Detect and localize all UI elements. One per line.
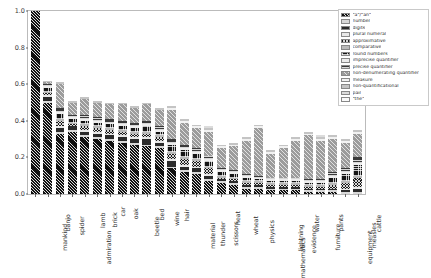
legend-item[interactable]: comparative (341, 44, 426, 50)
stacked-bar[interactable] (43, 81, 52, 194)
bar-column[interactable]: wheat (228, 11, 240, 194)
stacked-bar[interactable] (68, 101, 77, 194)
stacked-bar[interactable] (204, 126, 213, 194)
bar-column[interactable]: beetle (128, 11, 140, 194)
x-axis-tick-mark (271, 194, 272, 197)
bar-column[interactable]: pants (314, 11, 326, 194)
legend-item[interactable]: approximative (341, 38, 426, 44)
stacked-bar[interactable] (180, 119, 189, 194)
plot-area: 0.00.20.40.60.81.0 mankindbanjospideradm… (27, 10, 366, 195)
bar-column[interactable]: mankind (29, 11, 41, 194)
bar-column[interactable]: wine (153, 11, 165, 194)
stacked-bar[interactable] (229, 143, 238, 194)
x-axis-tick-mark (308, 194, 309, 197)
legend-item[interactable]: measure (341, 77, 426, 83)
x-axis-tick-label: spider (79, 216, 85, 235)
stacked-bar[interactable] (328, 135, 337, 194)
legend-item[interactable]: imprecise quantifier (341, 57, 426, 63)
stacked-bar[interactable] (192, 124, 201, 194)
stacked-bar[interactable] (266, 150, 275, 194)
x-axis-tick-label: physics (269, 220, 275, 243)
legend-item[interactable]: plural numeral (341, 31, 426, 37)
stacked-bar[interactable] (254, 124, 263, 194)
x-axis-tick-mark (172, 194, 173, 197)
legend-item[interactable]: round numbers (341, 51, 426, 57)
x-axis-tick-label: lightning (298, 224, 304, 251)
bar-column[interactable]: mathematics (252, 11, 264, 194)
legend-swatch (341, 32, 350, 37)
legend-swatch (341, 97, 350, 102)
bar-segment (43, 103, 52, 194)
stacked-bar[interactable] (56, 82, 65, 194)
legend-label: "a"/"an" (353, 13, 372, 18)
stacked-bar[interactable] (118, 103, 127, 195)
stacked-bar[interactable] (291, 137, 300, 194)
legend-item[interactable]: digits (341, 25, 426, 31)
legend-swatch (341, 84, 350, 89)
stacked-bar[interactable] (80, 97, 89, 194)
bar-column[interactable]: banjo (41, 11, 53, 194)
stacked-bar[interactable] (31, 11, 40, 194)
bar-column[interactable]: hair (165, 11, 177, 194)
bar-segment (229, 146, 238, 170)
bar-column[interactable]: brick (91, 11, 103, 194)
bar-column[interactable]: material (178, 11, 190, 194)
x-axis-tick-label: scissors (233, 221, 239, 245)
bar-segment (266, 154, 275, 178)
legend-item[interactable]: "a"/"an" (341, 12, 426, 18)
stacked-bar[interactable] (316, 135, 325, 194)
bar-column[interactable]: physics (240, 11, 252, 194)
x-axis-tick-mark (333, 194, 334, 197)
stacked-bar[interactable] (304, 132, 313, 194)
legend-swatch (341, 91, 350, 96)
bar-column[interactable]: bed (141, 11, 153, 194)
legend-item[interactable]: pair (341, 90, 426, 96)
x-axis-tick-label: banjo (65, 214, 71, 231)
bar-column[interactable]: car (103, 11, 115, 194)
stacked-bar[interactable] (353, 130, 362, 194)
bar-column[interactable]: heat (215, 11, 227, 194)
x-axis-tick-mark (110, 194, 111, 197)
bar-segment (142, 104, 151, 120)
bar-segment (254, 128, 263, 176)
legend-label: round numbers (353, 52, 388, 57)
legend-label: measure (353, 78, 373, 83)
stacked-bar[interactable] (242, 137, 251, 194)
bar-segment (93, 139, 102, 194)
stacked-bar[interactable] (130, 106, 139, 194)
stacked-bar[interactable] (155, 108, 164, 194)
stacked-bar[interactable] (93, 101, 102, 194)
x-axis-tick-mark (345, 194, 346, 197)
bar-column[interactable]: scissors (203, 11, 215, 194)
bar-segment (217, 148, 226, 168)
legend-label: non-denumerating quantifier (353, 71, 419, 76)
bar-segment (68, 132, 77, 194)
legend-item[interactable]: number (341, 18, 426, 24)
bar-column[interactable]: oak (116, 11, 128, 194)
stacked-bar[interactable] (279, 145, 288, 194)
legend-item[interactable]: non-denumerating quantifier (341, 70, 426, 76)
legend-item[interactable]: non-quantificational (341, 83, 426, 89)
bar-column[interactable]: admiration (66, 11, 78, 194)
bar-column[interactable]: thunder (190, 11, 202, 194)
x-axis-tick-mark (122, 194, 123, 197)
legend-item[interactable]: "the" (341, 96, 426, 102)
bar-segment (80, 137, 89, 194)
legend-swatch (341, 71, 350, 76)
bar-column[interactable]: lightning (265, 11, 277, 194)
bar-segment (192, 174, 201, 194)
legend-item[interactable]: precise quantifier (341, 64, 426, 70)
bar-column[interactable]: water (290, 11, 302, 194)
stacked-bar[interactable] (105, 103, 114, 195)
stacked-bar[interactable] (142, 103, 151, 195)
stacked-bar[interactable] (167, 106, 176, 194)
bar-column[interactable]: lamb (79, 11, 91, 194)
bar-column[interactable]: furniture (302, 11, 314, 194)
x-axis-tick-label: brick (112, 212, 118, 227)
bar-segment (304, 135, 313, 179)
bar-column[interactable]: evidence (277, 11, 289, 194)
stacked-bar[interactable] (217, 145, 226, 194)
stacked-bar[interactable] (341, 139, 350, 194)
bar-column[interactable]: spider (54, 11, 66, 194)
x-axis-tick-mark (234, 194, 235, 197)
